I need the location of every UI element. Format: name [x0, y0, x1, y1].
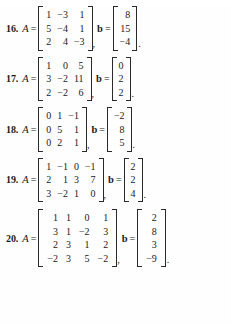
vector-variable-label: b [96, 73, 102, 84]
exercise-list-page: 16.A=1−315−4124−3,b=815−4.17.A=1053−2112… [0, 6, 231, 325]
matrix-cell: −2 [54, 187, 71, 201]
matrix-row: 8 [142, 225, 161, 239]
matrix-a: 01−1051021 [38, 107, 87, 152]
matrix-cell: 0 [43, 109, 54, 123]
vector-variable-label: b [97, 23, 103, 34]
matrix-cell: 1 [62, 225, 75, 239]
matrix-cell: 15 [118, 22, 133, 36]
matrix-cell: 1 [43, 59, 54, 73]
matrix-row: 2−26 [43, 86, 86, 100]
matrix-cell: 2 [54, 136, 65, 150]
exercise-number: 19. [6, 174, 18, 185]
matrix-row: 2 [129, 160, 138, 174]
matrix-cell: −1 [65, 109, 82, 123]
matrix-row: 2 [129, 173, 138, 187]
equals-sign: = [31, 233, 37, 244]
matrix-cell: 1 [71, 22, 88, 36]
matrix-cell: 1 [65, 123, 82, 137]
matrix-cell: 3 [142, 238, 161, 252]
matrix-variable-label: A [22, 174, 28, 185]
period-mark: . [144, 189, 147, 202]
matrix-cell: 4 [54, 35, 71, 49]
matrix-row: 01−1 [43, 109, 82, 123]
equals-sign: = [104, 73, 110, 84]
matrix-row: 5 [112, 136, 127, 150]
vector-b: 815−4 [113, 6, 138, 51]
matrix-row: −2 [112, 109, 127, 123]
matrix-cell: 1 [54, 173, 71, 187]
period-mark: . [132, 88, 135, 101]
matrix-row: 3−210 [43, 187, 98, 201]
matrix-cell: 5 [54, 123, 65, 137]
matrix-cell: 1 [65, 136, 82, 150]
matrix-row: 24−3 [43, 35, 87, 49]
matrix-cell: 1 [75, 238, 94, 252]
exercise-number: 18. [6, 124, 18, 135]
matrix-cell: 0 [82, 187, 99, 201]
vector-b-grid: 283−9 [142, 211, 161, 265]
exercise-number: 16. [6, 23, 18, 34]
matrix-a-grid: 1−10−121373−210 [43, 160, 98, 201]
matrix-row: 2312 [43, 238, 112, 252]
matrix-variable-label: A [22, 23, 28, 34]
matrix-row: 8 [112, 123, 127, 137]
comma-separator: , [87, 139, 90, 152]
matrix-cell: 0 [43, 123, 54, 137]
matrix-row: 15 [118, 22, 133, 36]
matrix-cell: 0 [54, 59, 71, 73]
vector-b: −285 [107, 107, 132, 152]
equals-sign: = [31, 124, 37, 135]
matrix-cell: 3 [43, 72, 54, 86]
matrix-row: −4 [118, 35, 133, 49]
matrix-row: 8 [118, 8, 133, 22]
comma-separator: , [104, 189, 107, 202]
matrix-cell: 5 [112, 136, 127, 150]
matrix-cell: 3 [62, 238, 75, 252]
matrix-cell: −9 [142, 252, 161, 266]
matrix-a: 1053−2112−26 [38, 57, 91, 102]
vector-b-grid: 224 [129, 160, 138, 201]
matrix-cell: 0 [71, 160, 82, 174]
matrix-variable-label: A [22, 124, 28, 135]
matrix-cell: 2 [43, 35, 54, 49]
exercise-item: 17.A=1053−2112−26,b=022. [0, 57, 231, 102]
exercise-item: 19.A=1−10−121373−210,b=224. [0, 158, 231, 203]
matrix-cell: −3 [71, 35, 88, 49]
exercise-item: 16.A=1−315−4124−3,b=815−4. [0, 6, 231, 51]
matrix-variable-label: A [22, 73, 28, 84]
vector-b-grid: 815−4 [118, 8, 133, 49]
matrix-cell: −2 [54, 72, 71, 86]
matrix-cell: 0 [75, 211, 94, 225]
vector-variable-label: b [122, 233, 128, 244]
matrix-row: 2 [117, 72, 126, 86]
matrix-cell: 8 [142, 225, 161, 239]
matrix-row: 5−41 [43, 22, 87, 36]
matrix-a-grid: 110131−232312−235−2 [43, 211, 112, 265]
equals-sign: = [105, 23, 111, 34]
matrix-a: 1−10−121373−210 [38, 158, 103, 203]
matrix-cell: 2 [129, 160, 138, 174]
comma-separator: , [92, 88, 95, 101]
equals-sign: = [31, 174, 37, 185]
matrix-cell: 8 [112, 123, 127, 137]
matrix-cell: 3 [62, 252, 75, 266]
matrix-cell: −1 [82, 160, 99, 174]
matrix-cell: −2 [112, 109, 127, 123]
matrix-a: 110131−232312−235−2 [38, 209, 117, 267]
matrix-cell: 1 [71, 8, 88, 22]
exercise-item: 20.A=110131−232312−235−2,b=283−9. [0, 209, 231, 267]
matrix-cell: 2 [117, 72, 126, 86]
matrix-cell: −2 [54, 86, 71, 100]
matrix-cell: −2 [75, 225, 94, 239]
period-mark: . [138, 38, 141, 51]
matrix-cell: 7 [82, 173, 99, 187]
matrix-row: 0 [117, 59, 126, 73]
matrix-cell: −2 [94, 252, 113, 266]
equals-sign: = [130, 233, 136, 244]
matrix-cell: 2 [117, 86, 126, 100]
vector-b: 283−9 [137, 209, 166, 267]
matrix-row: 1−10−1 [43, 160, 98, 174]
vector-variable-label: b [108, 174, 114, 185]
matrix-cell: 3 [71, 173, 82, 187]
matrix-cell: 1 [54, 109, 65, 123]
